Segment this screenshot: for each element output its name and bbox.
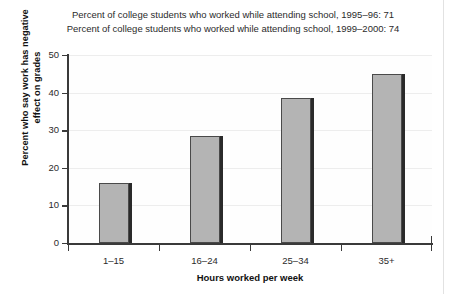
y-tick-label-20: 20 bbox=[32, 163, 59, 173]
x-axis-end-tick bbox=[431, 236, 432, 244]
x-tick-mark-3 bbox=[341, 244, 342, 251]
y-tick-label-40: 40 bbox=[32, 88, 59, 98]
x-tick-mark-4 bbox=[431, 244, 432, 251]
page-edge-artifact bbox=[443, 0, 444, 294]
chart-title-block: Percent of college students who worked w… bbox=[0, 8, 466, 36]
y-tick-label-50: 50 bbox=[32, 50, 59, 60]
bar-25-34[interactable] bbox=[281, 98, 311, 243]
chart-title-line-2: Percent of college students who worked w… bbox=[0, 22, 466, 36]
x-tick-label-25-34: 25–34 bbox=[250, 255, 341, 266]
y-tick-label-30: 30 bbox=[32, 125, 59, 135]
bar-1-15[interactable] bbox=[99, 183, 129, 243]
plot-area bbox=[68, 55, 432, 243]
x-tick-mark-1 bbox=[159, 244, 160, 251]
x-tick-mark-0 bbox=[68, 244, 69, 251]
gridline-50 bbox=[68, 55, 432, 56]
y-tick-label-0: 0 bbox=[32, 238, 59, 248]
x-tick-label-16-24: 16–24 bbox=[159, 255, 250, 266]
x-tick-label-1-15: 1–15 bbox=[68, 255, 159, 266]
chart-title-line-1: Percent of college students who worked w… bbox=[0, 8, 466, 22]
x-tick-mark-2 bbox=[250, 244, 251, 251]
x-axis-title: Hours worked per week bbox=[68, 272, 432, 283]
y-axis-title-line-1: Percent who say work has negative bbox=[20, 0, 32, 181]
x-tick-label-35-plus: 35+ bbox=[341, 255, 432, 266]
bar-35-plus[interactable] bbox=[372, 74, 402, 243]
bar-16-24[interactable] bbox=[190, 136, 220, 243]
y-axis-line bbox=[67, 54, 69, 244]
y-tick-label-10: 10 bbox=[32, 200, 59, 210]
